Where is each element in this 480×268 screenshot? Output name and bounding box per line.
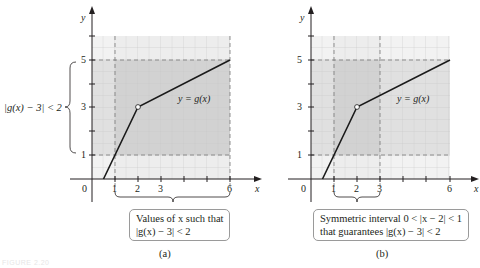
y-tick-5: 5 [297,54,302,65]
grid-lines [311,36,450,179]
y-axis-label: y [80,12,86,23]
y-tick-3: 3 [81,101,86,112]
x-axis-label: x [473,183,479,194]
x-axis-label: x [254,183,260,194]
x-tick-3: 3 [158,183,163,194]
box-b-line1: Symmetric interval 0 < |x − 2| < 1 [320,212,462,225]
y-axis-label: y [299,12,305,23]
y-axis-arrow-icon [89,6,95,14]
x-tick-1: 1 [112,183,117,194]
curve-label: y = g(x) [177,93,211,105]
y-tick-1: 1 [297,149,302,160]
box-a-line1: Values of x such that [136,212,223,225]
figure-caption: FIGURE 2.20 [2,259,50,266]
x-tick-2: 2 [135,183,140,194]
x-axis-arrow-icon [471,176,479,182]
x-tick-6: 6 [227,183,232,194]
x-tick-6: 6 [447,183,452,194]
annotation-box-a: Values of x such that |g(x) − 3| < 2 [129,209,230,241]
y-brace [65,62,76,153]
x-tick-3: 3 [377,183,382,194]
brace-label: |g(x) − 3| < 2 [4,102,63,114]
x-axis-arrow-icon [254,176,262,182]
x-brace [115,192,230,202]
x-tick-1: 1 [331,183,336,194]
origin-label: 0 [82,183,87,194]
grid-lines [92,36,230,179]
annotation-box-b: Symmetric interval 0 < |x − 2| < 1 that … [313,209,469,241]
box-b-line2: that guarantees |g(x) − 3| < 2 [320,225,462,238]
x-tick-2: 2 [354,183,359,194]
origin-label: 0 [301,183,306,194]
y-tick-1: 1 [81,149,86,160]
open-point [136,105,141,110]
panel-b: y 5 3 1 0 1 2 3 6 x y = g(x) [288,6,479,202]
open-point [355,105,360,110]
curve-label: y = g(x) [396,93,430,105]
panel-a: y 5 3 1 0 1 2 3 6 x y = g(x) |g(x) − 3| … [4,6,262,202]
box-a-line2: |g(x) − 3| < 2 [136,225,223,238]
y-tick-5: 5 [81,54,86,65]
panel-b-label: (b) [376,248,388,259]
panel-a-label: (a) [159,248,171,259]
y-axis-arrow-icon [308,6,314,14]
y-tick-3: 3 [297,101,302,112]
